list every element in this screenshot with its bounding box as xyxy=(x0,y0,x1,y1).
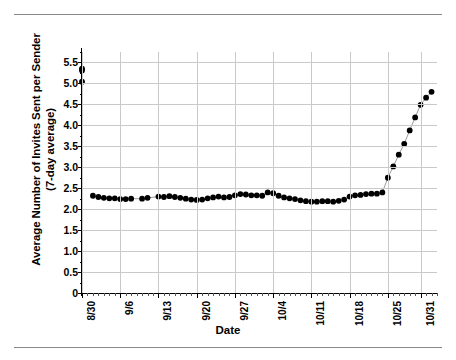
y-gridline xyxy=(82,251,437,252)
y-tick-label: 3.5 xyxy=(63,140,78,152)
x-gridline xyxy=(311,52,312,293)
x-tick-minor xyxy=(169,293,170,296)
data-point-marker xyxy=(412,114,418,120)
data-point-marker xyxy=(369,191,375,197)
y-tick-label: 4.5 xyxy=(63,98,78,110)
x-tick-minor xyxy=(344,293,345,296)
x-tick-label: 10/18 xyxy=(354,301,365,326)
data-point-marker xyxy=(90,193,96,199)
x-tick-minor xyxy=(355,293,356,296)
figure-page: Average Number of Invites Sent per Sende… xyxy=(0,0,456,360)
x-tick-minor xyxy=(219,293,220,296)
x-tick-minor xyxy=(328,293,329,296)
x-tick-minor xyxy=(93,293,94,296)
bottom-divider-rule xyxy=(14,347,442,348)
y-tick-label: 3.0 xyxy=(63,161,78,173)
data-point-marker xyxy=(188,197,194,203)
x-tick-minor xyxy=(229,293,230,296)
y-gridline xyxy=(82,188,437,189)
data-point-marker xyxy=(336,198,342,204)
data-point-marker xyxy=(358,192,364,198)
x-tick-mark xyxy=(311,293,312,298)
x-tick-mark xyxy=(273,293,274,298)
x-tick-minor xyxy=(410,293,411,296)
x-tick-label: 9/13 xyxy=(162,301,173,320)
x-tick-minor xyxy=(115,293,116,296)
x-tick-minor xyxy=(366,293,367,296)
data-point-marker xyxy=(319,198,325,204)
y-axis-title-line2: (7-day average) xyxy=(43,25,57,275)
x-tick-label: 10/4 xyxy=(277,301,288,320)
x-gridline xyxy=(197,52,198,293)
x-tick-minor xyxy=(382,293,383,296)
x-tick-minor xyxy=(262,293,263,296)
x-tick-minor xyxy=(437,293,438,296)
x-tick-mark xyxy=(120,293,121,298)
x-tick-minor xyxy=(426,293,427,296)
data-point-marker xyxy=(106,195,112,201)
plot-area: 00.51.01.52.02.53.03.54.04.55.05.58/309/… xyxy=(82,52,437,293)
data-point-marker xyxy=(287,195,293,201)
x-tick-minor xyxy=(284,293,285,296)
y-gridline xyxy=(82,230,437,231)
x-tick-label: 9/6 xyxy=(124,301,135,315)
data-point-marker xyxy=(161,194,167,200)
data-series-line xyxy=(82,52,437,293)
x-gridline xyxy=(273,52,274,293)
x-tick-minor xyxy=(300,293,301,296)
y-gridline xyxy=(82,83,437,84)
x-tick-minor xyxy=(361,293,362,296)
x-tick-minor xyxy=(295,293,296,296)
x-tick-minor xyxy=(371,293,372,296)
x-tick-minor xyxy=(213,293,214,296)
data-point-marker xyxy=(205,195,211,201)
y-tick-label: 4.0 xyxy=(63,119,78,131)
data-point-marker xyxy=(259,193,265,199)
data-point-marker xyxy=(216,194,222,200)
data-point-marker xyxy=(374,191,380,197)
x-tick-minor xyxy=(268,293,269,296)
x-tick-minor xyxy=(131,293,132,296)
x-gridline xyxy=(82,52,83,293)
x-tick-minor xyxy=(257,293,258,296)
x-tick-minor xyxy=(279,293,280,296)
data-point-marker xyxy=(292,196,298,202)
x-tick-label: 8/30 xyxy=(86,301,97,320)
x-gridline xyxy=(235,52,236,293)
data-point-marker xyxy=(341,197,347,203)
y-gridline xyxy=(82,146,437,147)
y-tick-label: 2.5 xyxy=(63,182,78,194)
x-tick-minor xyxy=(240,293,241,296)
x-tick-mark xyxy=(197,293,198,298)
x-tick-label: 10/31 xyxy=(425,301,436,326)
top-divider-rule xyxy=(14,14,442,15)
x-tick-mark xyxy=(82,293,83,298)
x-tick-minor xyxy=(317,293,318,296)
x-tick-minor xyxy=(432,293,433,296)
data-point-marker xyxy=(237,191,243,197)
data-point-marker xyxy=(352,192,358,198)
x-gridline xyxy=(421,52,422,293)
x-tick-minor xyxy=(415,293,416,296)
y-axis-title-line1: Average Number of Invites Sent per Sende… xyxy=(30,33,42,266)
y-tick-label: 0.5 xyxy=(63,266,78,278)
x-tick-minor xyxy=(142,293,143,296)
data-point-marker xyxy=(123,196,129,202)
data-point-marker xyxy=(330,199,336,205)
data-point-marker xyxy=(227,194,233,200)
x-tick-label: 10/11 xyxy=(315,301,326,325)
x-tick-minor xyxy=(393,293,394,296)
y-axis-title: Average Number of Invites Sent per Sende… xyxy=(30,25,57,275)
data-point-marker xyxy=(221,195,227,201)
data-point-marker xyxy=(379,190,385,196)
x-tick-minor xyxy=(191,293,192,296)
y-tick-label: 5.0 xyxy=(63,77,78,89)
data-point-marker xyxy=(243,192,249,198)
x-tick-minor xyxy=(180,293,181,296)
x-tick-mark xyxy=(158,293,159,298)
x-tick-minor xyxy=(290,293,291,296)
chart-figure: Average Number of Invites Sent per Sende… xyxy=(0,18,456,344)
data-point-marker xyxy=(101,195,107,201)
x-tick-mark xyxy=(350,293,351,298)
y-tick-label: 1.5 xyxy=(63,224,78,236)
